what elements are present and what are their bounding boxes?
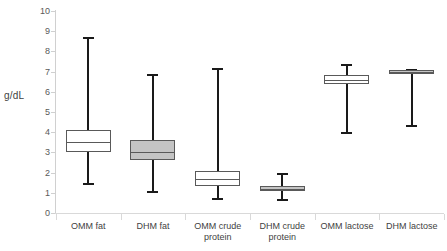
whisker-cap-upper <box>341 64 352 66</box>
whisker-line <box>411 69 413 128</box>
x-category-label: DHM fat <box>121 217 186 251</box>
y-tick-label: 8 <box>24 47 50 56</box>
y-tick-label: 7 <box>24 67 50 76</box>
x-axis-category-labels: OMM fatDHM fatOMM crudeproteinDHM crudep… <box>56 217 444 251</box>
x-category-label-line2: protein <box>250 232 315 243</box>
x-category-label-line2: protein <box>185 232 250 243</box>
whisker-cap-upper <box>83 37 94 39</box>
whisker-line <box>152 74 154 193</box>
box-plot-group[interactable] <box>315 11 380 213</box>
whisker-cap-upper <box>147 74 158 76</box>
box-plot-group[interactable] <box>56 11 121 213</box>
whisker-cap-lower <box>212 198 223 200</box>
box-plot-group[interactable] <box>250 11 315 213</box>
x-category-label: OMM lactose <box>315 217 380 251</box>
box-plot-group[interactable] <box>379 11 444 213</box>
x-category-label-line1: DHM crude <box>250 221 315 232</box>
whisker-cap-lower <box>83 183 94 185</box>
y-tick-label: 6 <box>24 87 50 96</box>
x-category-label-line1: OMM lactose <box>315 221 380 232</box>
x-category-label-line1: OMM crude <box>185 221 250 232</box>
whisker-cap-lower <box>341 132 352 134</box>
median-line <box>389 72 434 73</box>
whisker-cap-upper <box>212 68 223 70</box>
whisker-line <box>87 37 89 184</box>
y-tick-label: 0 <box>24 209 50 218</box>
x-category-label: DHM lactose <box>379 217 444 251</box>
y-axis-tick-labels: 012345678910 <box>20 0 50 251</box>
category-separator <box>444 214 445 220</box>
box-plot-group[interactable] <box>185 11 250 213</box>
y-tick-label: 4 <box>24 128 50 137</box>
whisker-cap-lower <box>406 125 417 127</box>
box-rect[interactable] <box>66 130 111 152</box>
box-plot-group[interactable] <box>121 11 186 213</box>
x-category-label: OMM fat <box>56 217 121 251</box>
whisker-cap-lower <box>277 199 288 201</box>
y-tick-label: 1 <box>24 188 50 197</box>
x-category-label: OMM crudeprotein <box>185 217 250 251</box>
median-line <box>130 152 175 153</box>
median-line <box>66 142 111 143</box>
x-category-label-line1: OMM fat <box>56 221 121 232</box>
y-tick-label: 3 <box>24 148 50 157</box>
box-rect[interactable] <box>130 140 175 160</box>
plot-area <box>56 11 444 213</box>
y-tick-label: 10 <box>24 7 50 16</box>
median-line <box>195 179 240 180</box>
x-category-label-line1: DHM lactose <box>379 221 444 232</box>
whisker-cap-lower <box>147 191 158 193</box>
median-line <box>260 189 305 190</box>
y-tick-label: 2 <box>24 168 50 177</box>
y-tick-label: 5 <box>24 108 50 117</box>
box-plot-chart: g/dL 012345678910 OMM fatDHM fatOMM crud… <box>0 0 447 251</box>
median-line <box>324 80 369 81</box>
x-category-label-line1: DHM fat <box>121 221 186 232</box>
x-category-label: DHM crudeprotein <box>250 217 315 251</box>
y-tick-label: 9 <box>24 27 50 36</box>
whisker-cap-upper <box>277 173 288 175</box>
